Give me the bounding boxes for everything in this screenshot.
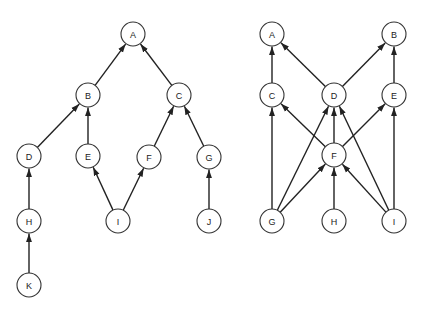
node-label: C: [176, 91, 183, 101]
node-j: J: [197, 209, 221, 233]
node-k: K: [17, 273, 41, 297]
node-e: E: [382, 83, 406, 107]
node-label: F: [146, 153, 152, 163]
node-label: D: [26, 152, 33, 162]
node-label: E: [391, 91, 397, 101]
edge-d-to-b: [342, 43, 385, 87]
node-f: F: [322, 143, 346, 167]
node-label: A: [130, 30, 136, 40]
node-label: E: [85, 152, 91, 162]
edge-c-to-a: [141, 44, 172, 85]
edge-b-to-a: [95, 44, 126, 85]
node-label: J: [207, 217, 212, 227]
node-label: C: [269, 91, 276, 101]
edge-i-to-e: [93, 167, 113, 210]
node-label: G: [205, 153, 212, 163]
node-h: H: [17, 209, 41, 233]
node-label: A: [269, 30, 275, 40]
node-label: G: [268, 217, 275, 227]
node-d: D: [322, 83, 346, 107]
node-label: D: [331, 91, 338, 101]
node-c: C: [167, 83, 191, 107]
edge-g-to-f: [280, 164, 325, 212]
edge-f-to-c: [154, 106, 173, 146]
node-h: H: [322, 209, 346, 233]
edge-g-to-c: [184, 106, 203, 146]
edge-i-to-f: [342, 164, 386, 212]
edge-i-to-d: [339, 106, 388, 210]
node-b: B: [76, 83, 100, 107]
node-label: F: [331, 151, 337, 161]
node-e: E: [76, 144, 100, 168]
edge-d-to-b: [37, 104, 79, 147]
node-i: I: [106, 209, 130, 233]
node-f: F: [137, 145, 161, 169]
node-g: G: [260, 209, 284, 233]
left-graph: ABCDEFGHIJK: [17, 22, 221, 297]
node-c: C: [260, 83, 284, 107]
node-label: I: [117, 217, 120, 227]
node-label: B: [85, 91, 91, 101]
edge-d-to-a: [281, 43, 326, 87]
node-label: B: [391, 30, 397, 40]
node-label: H: [26, 217, 33, 227]
node-label: K: [26, 281, 32, 291]
node-a: A: [121, 22, 145, 46]
node-label: I: [393, 217, 396, 227]
node-label: H: [331, 217, 338, 227]
node-d: D: [17, 144, 41, 168]
right-graph: ABCDEFGHI: [260, 22, 406, 233]
edge-g-to-d: [277, 106, 328, 210]
node-b: B: [382, 22, 406, 46]
node-a: A: [260, 22, 284, 46]
node-g: G: [197, 145, 221, 169]
node-i: I: [382, 209, 406, 233]
edge-i-to-f: [123, 168, 143, 210]
diagram-canvas: ABCDEFGHIJK ABCDEFGHI: [0, 0, 427, 312]
